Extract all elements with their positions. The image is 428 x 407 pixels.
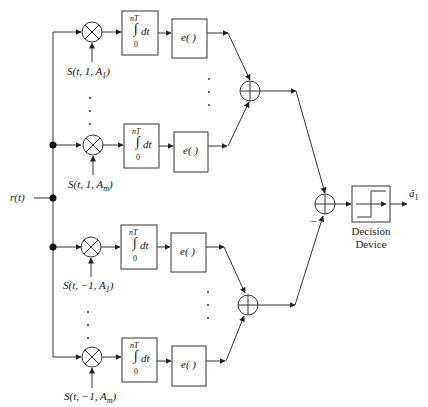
block-diagram (0, 0, 428, 407)
exp-block-label: e( ) (183, 144, 198, 156)
integrator-2 (124, 124, 159, 168)
integral-sign-icon: ∫ (136, 134, 140, 150)
junction-dot (50, 244, 57, 251)
reference-signal-label-4: S(t, −1, Am) (64, 390, 116, 405)
output-label: â1 (409, 187, 419, 202)
input-label: r(t) (10, 191, 25, 203)
integrator-body: dt (143, 138, 152, 150)
integral-sign-icon: ∫ (134, 21, 138, 37)
integral-sign-icon: ∫ (133, 235, 137, 251)
integrator-4 (122, 338, 157, 382)
integrator-body: dt (140, 239, 149, 251)
integrator-body: dt (141, 352, 150, 364)
minus-sign: – (311, 214, 317, 226)
summer-top (240, 81, 260, 101)
integrator-3 (121, 225, 157, 269)
integrator-lower-limit: 0 (133, 254, 137, 263)
reference-signal-label-1: S(t, 1, A1) (67, 65, 110, 80)
summer-final (315, 194, 335, 214)
junction-dot (50, 195, 57, 202)
integrator-body: dt (141, 25, 150, 37)
integrator-lower-limit: 0 (134, 40, 138, 49)
integrator-lower-limit: 0 (134, 367, 138, 376)
reference-signal-label-3: S(t, −1, A1) (63, 279, 113, 294)
integrator-1 (122, 11, 158, 55)
multiplier-1 (82, 22, 102, 42)
junction-dot (50, 142, 57, 149)
multiplier-2 (83, 135, 103, 155)
integrator-lower-limit: 0 (136, 153, 140, 162)
decision-device-label: Decision Device (345, 225, 397, 251)
summer-bottom (238, 295, 258, 315)
multiplier-3 (81, 237, 101, 257)
exp-block-label: e( ) (181, 358, 196, 370)
integral-sign-icon: ∫ (134, 348, 138, 364)
multiplier-4 (82, 347, 102, 367)
exp-block-label: e( ) (180, 245, 195, 257)
reference-signal-label-2: S(t, 1, Am) (68, 178, 113, 193)
exp-block-label: e( ) (181, 31, 196, 43)
